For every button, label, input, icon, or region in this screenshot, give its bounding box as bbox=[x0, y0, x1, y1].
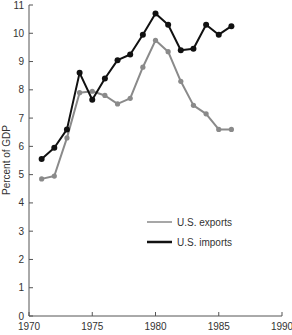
data-point bbox=[115, 101, 120, 106]
y-tick-label: 0 bbox=[18, 311, 24, 322]
y-axis-label: Percent of GDP bbox=[1, 125, 12, 195]
data-point bbox=[190, 46, 196, 52]
y-tick-label: 2 bbox=[18, 254, 24, 265]
y-tick-label: 3 bbox=[18, 226, 24, 237]
data-point bbox=[77, 70, 83, 76]
data-point bbox=[153, 10, 159, 16]
data-point bbox=[39, 176, 44, 181]
data-point bbox=[102, 93, 107, 98]
y-tick-label: 9 bbox=[18, 56, 24, 67]
data-point bbox=[77, 90, 82, 95]
axes: 0123456789101119701975198019851990 bbox=[13, 0, 292, 332]
data-point bbox=[39, 156, 45, 162]
x-tick-label: 1975 bbox=[81, 321, 104, 332]
data-point bbox=[165, 22, 171, 28]
y-tick-label: 6 bbox=[18, 141, 24, 152]
data-point bbox=[228, 23, 234, 29]
data-point bbox=[102, 76, 108, 82]
data-point bbox=[166, 49, 171, 54]
x-tick-label: 1970 bbox=[18, 321, 41, 332]
legend-label: U.S. exports bbox=[177, 217, 232, 228]
data-point bbox=[229, 127, 234, 132]
data-point bbox=[89, 97, 95, 103]
data-point bbox=[178, 47, 184, 53]
y-tick-label: 5 bbox=[18, 169, 24, 180]
data-point bbox=[90, 89, 95, 94]
data-point bbox=[216, 127, 221, 132]
data-point bbox=[191, 103, 196, 108]
series-lines bbox=[39, 10, 235, 181]
data-point bbox=[127, 51, 133, 57]
data-point bbox=[52, 173, 57, 178]
y-tick-label: 11 bbox=[14, 0, 25, 11]
y-tick-label: 7 bbox=[18, 113, 24, 124]
y-tick-label: 1 bbox=[18, 282, 24, 293]
y-tick-label: 4 bbox=[18, 197, 24, 208]
data-point bbox=[204, 111, 209, 116]
legend: U.S. exportsU.S. imports bbox=[147, 217, 232, 248]
x-tick-label: 1985 bbox=[208, 321, 231, 332]
data-point bbox=[178, 79, 183, 84]
data-point bbox=[64, 135, 69, 140]
x-tick-label: 1990 bbox=[271, 321, 292, 332]
line-chart: 0123456789101119701975198019851990 U.S. … bbox=[0, 0, 292, 335]
data-point bbox=[128, 96, 133, 101]
data-point bbox=[140, 32, 146, 38]
data-point bbox=[153, 38, 158, 43]
data-point bbox=[115, 57, 121, 63]
data-point bbox=[51, 145, 57, 151]
data-point bbox=[216, 32, 222, 38]
x-tick-label: 1980 bbox=[144, 321, 167, 332]
data-point bbox=[140, 65, 145, 70]
y-tick-label: 10 bbox=[13, 28, 25, 39]
data-point bbox=[64, 126, 70, 132]
y-tick-label: 8 bbox=[18, 84, 24, 95]
legend-label: U.S. imports bbox=[177, 237, 232, 248]
series-exports bbox=[39, 38, 234, 182]
data-point bbox=[203, 22, 209, 28]
